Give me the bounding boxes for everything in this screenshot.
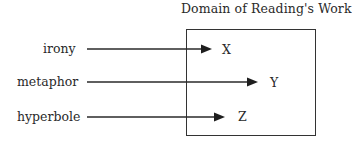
domain-box: [186, 29, 316, 136]
target-label-y: Y: [270, 76, 278, 90]
target-label-z: Z: [238, 110, 247, 124]
source-label-metaphor: metaphor: [17, 75, 78, 89]
source-label-hyperbole: hyperbole: [17, 110, 80, 124]
source-label-irony: irony: [43, 42, 76, 56]
target-label-x: X: [222, 43, 231, 57]
diagram-title: Domain of Reading's Work: [181, 1, 352, 16]
